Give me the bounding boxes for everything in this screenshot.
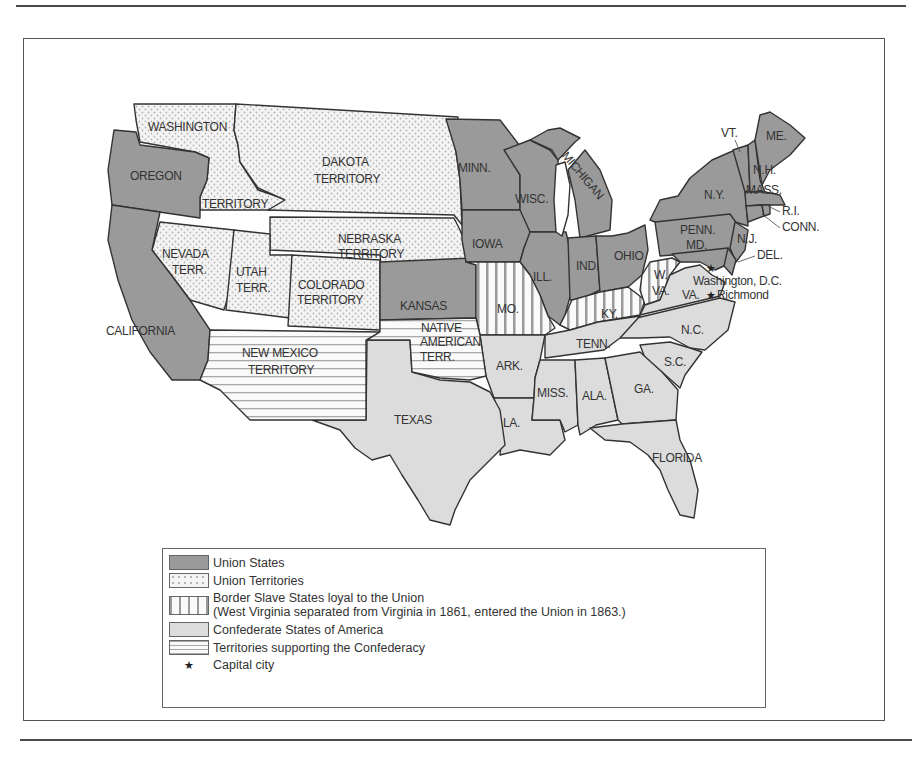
label-tenn: TENN. xyxy=(576,337,611,351)
label-nevada-1: NEVADA xyxy=(162,247,209,261)
label-nebraska-1: NEBRASKA xyxy=(338,232,401,246)
label-miss: MISS. xyxy=(537,386,568,400)
label-ny: N.Y. xyxy=(704,188,725,202)
legend-item-border-slave-states: Border Slave States loyal to the Union (… xyxy=(169,591,765,619)
label-conn: CONN. xyxy=(782,220,819,234)
label-ill: ILL. xyxy=(533,270,552,284)
region-new-york xyxy=(650,150,748,226)
label-washington: WASHINGTON xyxy=(148,120,227,134)
legend-label: Border Slave States loyal to the Union xyxy=(213,591,626,605)
region-iowa xyxy=(462,210,532,262)
swatch-union-states xyxy=(169,555,209,570)
label-new-mexico-2: TERRITORY xyxy=(248,363,314,377)
legend-label: Union States xyxy=(213,556,285,570)
label-florida: FLORIDA xyxy=(652,451,702,465)
label-native-1: NATIVE xyxy=(421,321,462,335)
region-connecticut xyxy=(746,205,764,222)
swatch-border-slave-states xyxy=(169,596,209,615)
label-md: MD. xyxy=(686,238,707,252)
legend-note: (West Virginia separated from Virginia i… xyxy=(213,605,626,619)
label-ky: KY. xyxy=(601,307,618,321)
leader-conn xyxy=(762,214,780,228)
label-ga: GA. xyxy=(634,382,654,396)
label-del: DEL. xyxy=(757,248,782,262)
legend-label: Territories supporting the Confederacy xyxy=(213,641,425,655)
label-nebraska-2: TERRITORY xyxy=(338,247,404,261)
legend-label: Union Territories xyxy=(213,574,304,588)
label-washington-dc: Washington, D.C. xyxy=(693,274,782,288)
legend-item-union-states: Union States xyxy=(169,555,765,570)
label-texas: TEXAS xyxy=(394,413,432,427)
capital-washington-star: ★ xyxy=(706,262,716,274)
label-vt: VT. xyxy=(721,126,737,140)
label-utah-2: TERR. xyxy=(236,281,271,295)
label-native-2: AMERICAN xyxy=(420,335,481,349)
label-california: CALIFORNIA xyxy=(106,324,175,338)
swatch-union-territories xyxy=(169,573,209,588)
region-florida xyxy=(590,420,698,518)
star-icon: ★ xyxy=(169,659,209,672)
label-nevada-2: TERR. xyxy=(172,263,207,277)
label-wisc: WISC. xyxy=(515,192,548,206)
label-ark: ARK. xyxy=(496,359,523,373)
label-mass: MASS. xyxy=(746,183,782,197)
label-colorado-1: COLORADO xyxy=(298,278,364,292)
label-nj: N.J. xyxy=(737,232,757,246)
label-ri: R.I. xyxy=(782,204,799,218)
label-ala: ALA. xyxy=(582,389,607,403)
label-dakota-1: DAKOTA xyxy=(322,155,369,169)
label-ohio: OHIO xyxy=(614,249,643,263)
label-la: LA. xyxy=(503,416,520,430)
legend-label: Confederate States of America xyxy=(213,623,383,637)
label-oregon: OREGON xyxy=(130,169,182,183)
lake-michigan xyxy=(554,162,570,236)
label-new-mexico-1: NEW MEXICO xyxy=(242,346,318,360)
label-kansas: KANSAS xyxy=(400,299,447,313)
legend-label: Capital city xyxy=(213,658,274,672)
label-native-3: TERR. xyxy=(420,350,455,364)
label-nh: N.H. xyxy=(753,163,776,177)
map-legend: Union States Union Territories Border Sl… xyxy=(162,548,766,708)
label-washington-territory: TERRITORY xyxy=(202,197,268,211)
label-iowa: IOWA xyxy=(472,237,503,251)
label-richmond: Richmond xyxy=(717,288,769,302)
label-sc: S.C. xyxy=(664,355,686,369)
label-utah-1: UTAH xyxy=(236,265,267,279)
capital-richmond-star: ★ xyxy=(706,289,716,301)
label-penn: PENN. xyxy=(680,223,715,237)
legend-item-confederate-states: Confederate States of America xyxy=(169,622,765,637)
label-colorado-2: TERRITORY xyxy=(297,293,363,307)
label-ind: IND. xyxy=(576,259,599,273)
legend-item-confederate-territories: Territories supporting the Confederacy xyxy=(169,640,765,655)
label-va: VA. xyxy=(682,288,700,302)
label-mo: MO. xyxy=(497,302,519,316)
label-nc: N.C. xyxy=(681,323,704,337)
label-dakota-2: TERRITORY xyxy=(314,172,380,186)
swatch-confederate-states xyxy=(169,622,209,637)
label-me: ME. xyxy=(766,129,786,143)
legend-item-union-territories: Union Territories xyxy=(169,573,765,588)
label-wva-2: VA. xyxy=(652,284,670,298)
label-wva-1: W. xyxy=(654,268,667,282)
legend-item-capital-city: ★ Capital city xyxy=(169,658,765,672)
label-minn: MINN. xyxy=(458,161,491,175)
swatch-confederate-territories xyxy=(169,640,209,655)
